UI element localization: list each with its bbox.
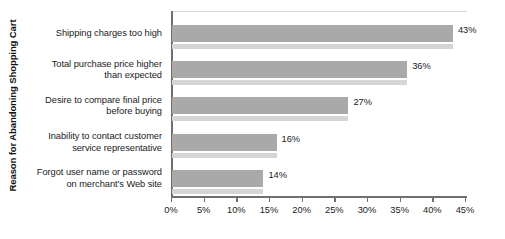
category-label-line: on merchant's Web site xyxy=(26,179,162,191)
bar[interactable] xyxy=(172,170,263,187)
x-axis-tick-label: 5% xyxy=(189,205,219,215)
x-axis-tick-label: 0% xyxy=(156,205,186,215)
x-axis-tick-label: 30% xyxy=(352,205,382,215)
category-label-line: Inability to contact customer xyxy=(26,131,162,143)
x-axis-tick-label: 45% xyxy=(450,205,480,215)
x-axis-tick xyxy=(432,197,433,202)
x-axis-tick xyxy=(302,197,303,202)
bar-shadow xyxy=(172,44,453,49)
x-axis-tick xyxy=(334,197,335,202)
bar-group xyxy=(172,61,407,85)
category-label-line: Forgot user name or password xyxy=(26,167,162,179)
bar-group xyxy=(172,134,277,158)
x-axis-tick-label: 35% xyxy=(385,205,415,215)
bar-value-label: 16% xyxy=(282,134,301,144)
x-axis-tick xyxy=(171,197,172,202)
bar[interactable] xyxy=(172,97,348,114)
bar-shadow xyxy=(172,116,348,121)
y-axis-title: Reason for Abandoning Shopping Cart xyxy=(0,0,26,210)
x-axis-tick xyxy=(400,197,401,202)
x-axis-tick-label: 40% xyxy=(417,205,447,215)
x-axis-tick xyxy=(269,197,270,202)
bar-shadow xyxy=(172,189,263,194)
category-label: Desire to compare final pricebefore buyi… xyxy=(26,95,162,118)
category-label-line: service representative xyxy=(26,143,162,155)
bar-value-label: 14% xyxy=(268,170,287,180)
x-axis-tick-label: 25% xyxy=(319,205,349,215)
bar-value-label: 43% xyxy=(458,25,477,35)
bar-value-label: 27% xyxy=(353,97,372,107)
bar-group xyxy=(172,170,263,194)
x-axis-tick-label: 15% xyxy=(254,205,284,215)
x-axis-line xyxy=(171,196,467,198)
category-label: Total purchase price higherthan expected xyxy=(26,59,162,82)
bar-group xyxy=(172,97,348,121)
x-axis-tick-label: 20% xyxy=(287,205,317,215)
y-axis-title-text: Reason for Abandoning Shopping Cart xyxy=(8,19,19,191)
category-label-line: Total purchase price higher xyxy=(26,59,162,71)
x-axis-tick-label: 10% xyxy=(221,205,251,215)
x-axis-tick xyxy=(367,197,368,202)
category-label-line: before buying xyxy=(26,106,162,118)
x-axis-tick xyxy=(236,197,237,202)
category-label: Inability to contact customerservice rep… xyxy=(26,131,162,154)
category-label-line: than expected xyxy=(26,70,162,82)
category-label: Forgot user name or passwordon merchant'… xyxy=(26,167,162,190)
plot-top-rule xyxy=(171,11,467,12)
category-label-line: Shipping charges too high xyxy=(26,28,162,40)
bar[interactable] xyxy=(172,134,277,151)
x-axis-tick xyxy=(465,197,466,202)
x-axis-tick xyxy=(204,197,205,202)
bar-shadow xyxy=(172,153,277,158)
category-label-line: Desire to compare final price xyxy=(26,95,162,107)
plot-area: 43%36%27%16%14% xyxy=(171,11,467,197)
category-label: Shipping charges too high xyxy=(26,28,162,40)
bar-value-label: 36% xyxy=(412,61,431,71)
bar-group xyxy=(172,25,453,49)
category-label-list: Shipping charges too highTotal purchase … xyxy=(28,11,167,197)
bar-shadow xyxy=(172,80,407,85)
bar-chart: Reason for Abandoning Shopping Cart Ship… xyxy=(0,0,505,239)
bar[interactable] xyxy=(172,61,407,78)
bar[interactable] xyxy=(172,25,453,42)
